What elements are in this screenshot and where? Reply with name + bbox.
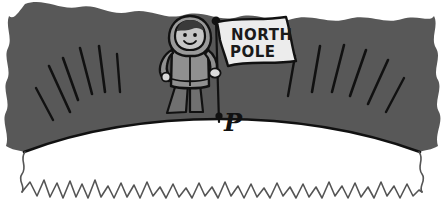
flag-text-line-1: NORTH — [231, 26, 292, 44]
figure-eye-left — [183, 33, 187, 37]
flag-group: NORTH POLE — [217, 17, 296, 66]
point-p-label: P — [223, 108, 243, 137]
flag-text-line-2: POLE — [230, 43, 276, 61]
figure-eye-right — [193, 33, 197, 37]
illustration-canvas: NORTH POLE — [0, 0, 442, 219]
point-p-dot — [215, 112, 222, 119]
figure-left-hand — [162, 73, 171, 82]
figure-right-hand-glove — [209, 68, 220, 77]
north-pole-scene-svg: NORTH POLE — [0, 0, 442, 219]
